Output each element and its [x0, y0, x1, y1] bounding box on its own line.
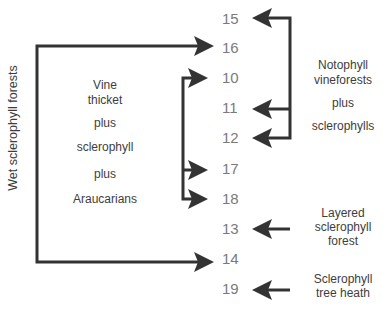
- notophyll-bracket: [268, 18, 290, 138]
- node-17: 17: [222, 161, 246, 177]
- notophyll-line-4: sclerophylls: [300, 119, 386, 133]
- vine-thicket-line-5: plus: [60, 167, 150, 181]
- tree-heath-line-1: Sclerophyll: [300, 272, 386, 286]
- layered-line-3: forest: [300, 234, 386, 248]
- node-12: 12: [222, 130, 246, 146]
- wet-sclerophyll-label: Wet sclerophyll forests: [6, 58, 20, 198]
- node-10: 10: [222, 70, 246, 86]
- vine-thicket-line-6: Araucarians: [60, 192, 150, 206]
- node-16: 16: [222, 40, 246, 56]
- node-13: 13: [222, 221, 246, 237]
- vine-thicket-line-4: sclerophyll: [60, 140, 150, 154]
- node-14: 14: [222, 251, 246, 267]
- vine-thicket-line-2: thicket: [60, 93, 150, 107]
- node-15: 15: [222, 11, 246, 27]
- vine-thicket-line-1: Vine: [60, 78, 150, 92]
- notophyll-line-3: plus: [300, 96, 386, 110]
- notophyll-line-2: vineforests: [300, 73, 386, 87]
- tree-heath-line-2: tree heath: [300, 286, 386, 300]
- node-19: 19: [222, 281, 246, 297]
- notophyll-line-1: Notophyll: [300, 58, 386, 72]
- layered-line-1: Layered: [300, 206, 386, 220]
- layered-line-2: sclerophyll: [300, 220, 386, 234]
- vine-thicket-bracket: [183, 78, 200, 199]
- vegetation-relationship-diagram: 15 16 10 11 12 17 18 13 14 19 Wet sclero…: [0, 0, 389, 309]
- arrows-layer: [0, 0, 389, 309]
- node-11: 11: [222, 100, 246, 116]
- node-18: 18: [222, 191, 246, 207]
- vine-thicket-line-3: plus: [60, 116, 150, 130]
